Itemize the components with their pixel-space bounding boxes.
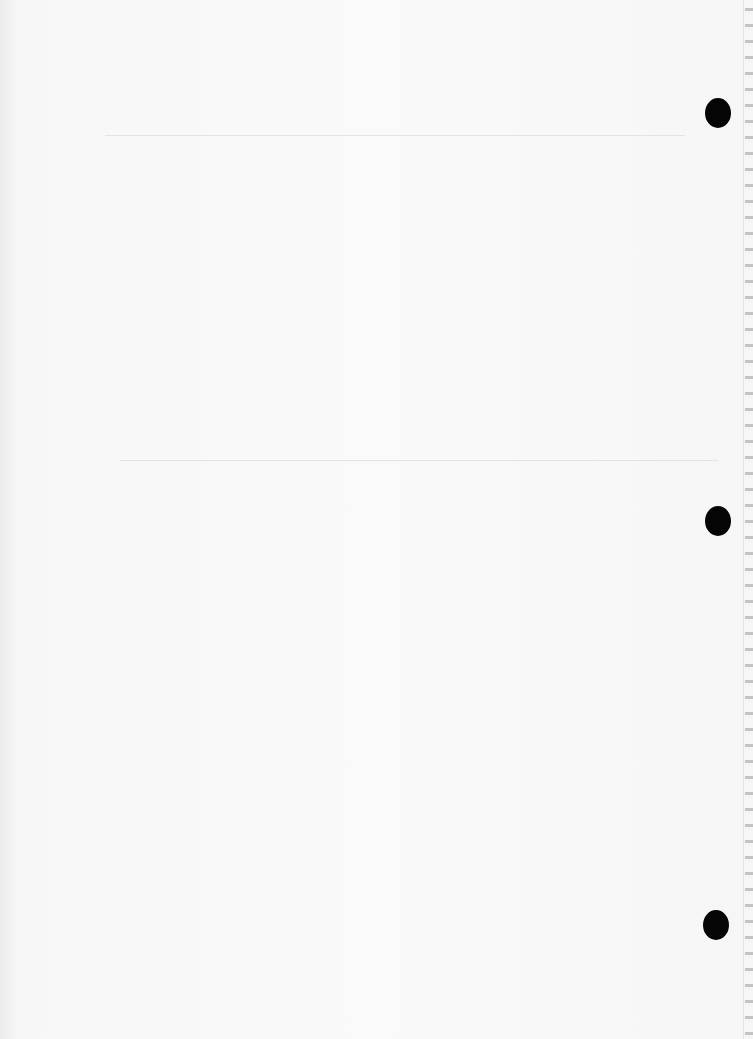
horizontal-rule-middle	[120, 460, 718, 461]
edge-bleed-marks	[745, 0, 753, 1039]
page-edge-line	[743, 0, 744, 1039]
punch-hole-top	[705, 98, 731, 128]
scanned-page	[0, 0, 753, 1039]
punch-hole-bottom	[703, 910, 729, 940]
horizontal-rule-top	[105, 135, 685, 136]
punch-hole-middle	[705, 506, 731, 536]
